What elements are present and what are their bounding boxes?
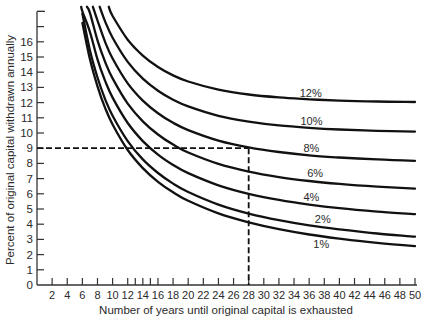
y-tick-label: 9 bbox=[27, 142, 33, 154]
curve-4pct bbox=[81, 7, 415, 214]
curve-label-4pct: 4% bbox=[303, 191, 319, 203]
x-tick-label: 10 bbox=[106, 289, 118, 301]
x-tick-label: 22 bbox=[197, 289, 209, 301]
y-tick-label: 2 bbox=[27, 249, 33, 261]
x-tick-label: 34 bbox=[288, 289, 300, 301]
y-tick-label: 5 bbox=[27, 203, 33, 215]
axes: 0123456789101112131415162468101214161820… bbox=[20, 11, 421, 301]
x-tick-label: 6 bbox=[79, 289, 85, 301]
y-axis-title: Percent of original capital withdrawn an… bbox=[4, 35, 16, 265]
x-tick-label: 20 bbox=[182, 289, 194, 301]
x-tick-label: 4 bbox=[64, 289, 70, 301]
x-tick-label: 38 bbox=[318, 289, 330, 301]
y-tick-label: 4 bbox=[27, 218, 34, 230]
x-tick-label: 30 bbox=[258, 289, 270, 301]
x-tick-label: 12 bbox=[122, 289, 134, 301]
y-tick-label: 13 bbox=[20, 81, 33, 93]
curves bbox=[81, 7, 415, 246]
x-axis-title: Number of years until original capital i… bbox=[99, 304, 353, 316]
x-tick-label: 26 bbox=[227, 289, 239, 301]
y-tick-label: 0 bbox=[27, 279, 33, 291]
y-tick-label: 3 bbox=[27, 233, 33, 245]
x-tick-label: 44 bbox=[364, 289, 376, 301]
x-tick-label: 48 bbox=[394, 289, 406, 301]
x-tick-label: 16 bbox=[152, 289, 164, 301]
x-tick-label: 28 bbox=[243, 289, 255, 301]
y-tick-label: 10 bbox=[20, 127, 33, 139]
x-tick-label: 42 bbox=[348, 289, 360, 301]
y-tick-label: 15 bbox=[20, 51, 33, 63]
x-tick-label: 18 bbox=[167, 289, 179, 301]
curve-label-12pct: 12% bbox=[300, 87, 322, 99]
curve-label-2pct: 2% bbox=[315, 213, 331, 225]
y-tick-label: 8 bbox=[27, 157, 33, 169]
curve-label-10pct: 10% bbox=[300, 115, 322, 127]
curve-label-1pct: 1% bbox=[313, 238, 329, 250]
x-tick-label: 50 bbox=[409, 289, 421, 301]
x-tick-label: 40 bbox=[333, 289, 345, 301]
x-tick-label: 32 bbox=[273, 289, 285, 301]
curve-10pct bbox=[100, 7, 415, 132]
y-tick-label: 1 bbox=[27, 264, 33, 276]
x-tick-label: 46 bbox=[379, 289, 391, 301]
curve-8pct bbox=[93, 7, 415, 161]
withdrawal-chart: 0123456789101112131415162468101214161820… bbox=[0, 0, 429, 323]
curve-label-8pct: 8% bbox=[303, 142, 319, 154]
y-tick-label: 7 bbox=[27, 173, 33, 185]
y-tick-label: 14 bbox=[20, 66, 33, 78]
y-tick-label: 16 bbox=[20, 36, 33, 48]
curve-label-6pct: 6% bbox=[307, 167, 323, 179]
y-tick-label: 11 bbox=[21, 112, 33, 124]
x-tick-label: 2 bbox=[49, 289, 55, 301]
x-tick-label: 14 bbox=[137, 289, 149, 301]
x-tick-label: 24 bbox=[212, 289, 224, 301]
y-tick-label: 12 bbox=[20, 97, 33, 109]
x-tick-label: 8 bbox=[94, 289, 100, 301]
x-tick-label: 36 bbox=[303, 289, 315, 301]
y-tick-label: 6 bbox=[27, 188, 33, 200]
